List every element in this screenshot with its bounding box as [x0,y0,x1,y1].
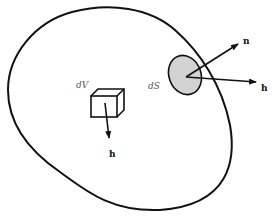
region-boundary [8,7,232,210]
diagram-canvas: dV dS n h h [0,0,273,217]
volume-element-cube [91,89,124,117]
volume-field-arrow [105,103,109,138]
dv-label: dV [76,80,90,90]
h-volume-label: h [109,149,116,159]
ds-label: dS [148,81,160,91]
n-label: n [243,36,250,46]
h-surface-label: h [261,83,268,93]
